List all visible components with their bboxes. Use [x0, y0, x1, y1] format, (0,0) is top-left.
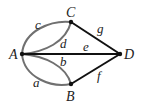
edge-label-c: c — [35, 17, 41, 32]
vertex-A — [20, 52, 24, 56]
vertex-B — [69, 82, 73, 86]
vertex-label-A: A — [8, 47, 18, 62]
edge-label-f: f — [97, 68, 103, 83]
edge-label-a: a — [33, 75, 40, 90]
vertex-label-D: D — [123, 47, 134, 62]
edge-label-d: d — [60, 36, 67, 51]
edge-f — [71, 54, 120, 84]
graph-diagram: A B C D a b c d e f g — [0, 0, 143, 105]
edge-label-b: b — [60, 54, 67, 69]
vertex-label-C: C — [66, 5, 76, 20]
vertex-D — [118, 52, 122, 56]
vertex-label-B: B — [66, 89, 75, 104]
edge-label-e: e — [83, 39, 89, 54]
vertex-C — [69, 20, 73, 24]
edge-label-g: g — [97, 21, 104, 36]
edge-g — [71, 22, 120, 54]
